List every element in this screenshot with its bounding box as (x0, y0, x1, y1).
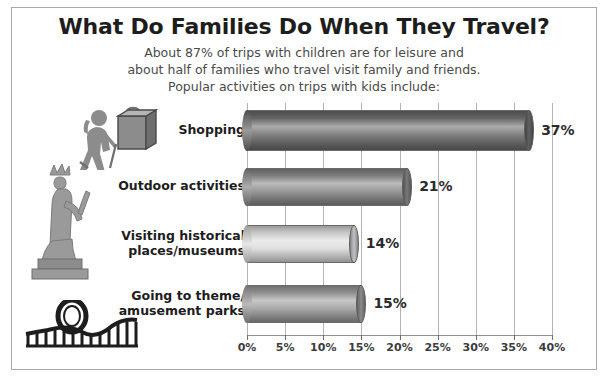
bar-value-label: 37% (541, 122, 575, 138)
x-axis-tick (400, 335, 401, 340)
subtitle-line-2: about half of families who travel visit … (0, 62, 608, 77)
page-title: What Do Families Do When They Travel? (0, 14, 608, 39)
category-label-line: Going to theme/ (85, 288, 245, 303)
statue-of-liberty-icon (28, 155, 106, 294)
bar-cap-left (242, 110, 252, 151)
x-axis-tick (438, 335, 439, 340)
x-axis-tick-label: 40% (532, 341, 572, 354)
x-axis-tick-label: 0% (227, 341, 267, 354)
bar-value-label: 14% (366, 235, 400, 251)
bar-body (247, 225, 354, 263)
bar (247, 285, 361, 323)
x-axis-tick-label: 10% (303, 341, 343, 354)
x-axis-tick (361, 335, 362, 340)
bar-value-label: 15% (373, 295, 407, 311)
category-label-line: Outdoor activities (85, 178, 245, 193)
category-label-outdoor-activities: Outdoor activities (85, 178, 245, 193)
x-axis-tick (247, 335, 248, 340)
x-axis-tick (552, 335, 553, 340)
bar-cap-left (242, 225, 252, 263)
x-axis-tick (514, 335, 515, 340)
bar-body (247, 285, 361, 323)
category-label-going-to-theme-parks: Going to theme/ amusement parks (85, 288, 245, 318)
x-axis-tick (323, 335, 324, 340)
x-axis-tick-label: 15% (341, 341, 381, 354)
category-label-line: Shopping (85, 122, 245, 137)
bar-value-label: 21% (419, 178, 453, 194)
x-axis-tick (285, 335, 286, 340)
infographic-chart: What Do Families Do When They Travel? Ab… (0, 0, 608, 382)
gridline (552, 103, 553, 335)
x-axis-tick (476, 335, 477, 340)
subtitle-line-3: Popular activities on trips with kids in… (0, 79, 608, 94)
bar-cap-left (242, 168, 252, 206)
category-label-visiting-historical-places: Visiting historical places/museums (85, 228, 245, 258)
x-axis-tick-label: 30% (456, 341, 496, 354)
x-axis-tick-label: 25% (418, 341, 458, 354)
category-label-shopping: Shopping (85, 122, 245, 137)
bar (247, 225, 354, 263)
bar (247, 110, 529, 151)
bar-cap-left (242, 285, 252, 323)
x-axis-tick-label: 35% (494, 341, 534, 354)
category-label-line: amusement parks (85, 303, 245, 318)
x-axis-tick-label: 5% (265, 341, 305, 354)
bar (247, 168, 407, 206)
subtitle-line-1: About 87% of trips with children are for… (0, 45, 608, 60)
bar-body (247, 110, 529, 151)
category-label-line: Visiting historical (85, 228, 245, 243)
x-axis-tick-label: 20% (380, 341, 420, 354)
bar-body (247, 168, 407, 206)
category-label-line: places/museums (85, 243, 245, 258)
bar-cap-right (349, 225, 359, 263)
